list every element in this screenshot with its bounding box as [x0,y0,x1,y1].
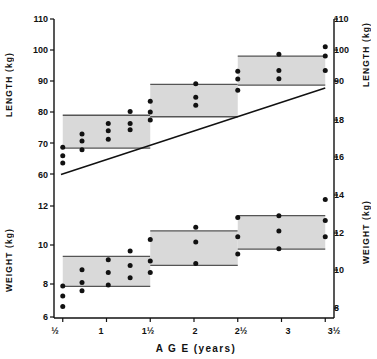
weight-data-point [148,259,153,264]
weight-data-point [106,283,111,288]
length-data-point [193,81,198,86]
length-data-point [235,77,240,82]
length-data-point [128,121,133,126]
weight-data-point [60,294,65,299]
weight-data-point [235,234,240,239]
weight-data-point [276,228,281,233]
length-data-point [235,88,240,93]
length-data-point [276,76,281,81]
length-data-point [60,160,65,165]
length-data-point [276,52,281,57]
length-data-point [323,68,328,73]
length-data-point [128,127,133,132]
weight-data-point [80,280,85,285]
length-data-point [323,44,328,49]
weight-data-point [323,197,328,202]
weight-data-point [148,237,153,242]
weight-data-point [80,267,85,272]
weight-data-point [148,270,153,275]
weight-data-point [276,246,281,251]
weight-reference-band-1 [150,231,238,265]
weight-data-point [235,251,240,256]
weight-data-point [128,275,133,280]
length-reference-band-2 [238,56,326,85]
length-data-point [276,68,281,73]
plot-canvas [0,0,377,359]
weight-data-point [193,261,198,266]
weight-data-point [106,257,111,262]
length-data-point [148,109,153,114]
length-data-point [128,109,133,114]
length-data-point [106,137,111,142]
length-data-point [80,132,85,137]
length-data-point [60,153,65,158]
weight-data-point [106,270,111,275]
length-data-point [148,118,153,123]
weight-data-point [60,304,65,309]
length-data-point [80,147,85,152]
weight-data-point [193,225,198,230]
weight-data-point [235,215,240,220]
weight-data-point [323,218,328,223]
length-data-point [60,145,65,150]
length-data-point [323,54,328,59]
length-data-point [193,103,198,108]
length-reference-band-1 [150,84,238,116]
length-data-point [148,99,153,104]
length-data-point [106,121,111,126]
weight-reference-band-2 [238,216,326,249]
weight-data-point [193,239,198,244]
weight-data-point [276,213,281,218]
length-data-point [106,128,111,133]
weight-data-point [60,283,65,288]
length-data-point [80,139,85,144]
weight-data-point [128,249,133,254]
weight-data-point [323,234,328,239]
length-data-point [235,69,240,74]
figure-root: LENGTH (kg) WEIGHT (kg) LENGTH (kg) WEIG… [0,0,377,359]
length-data-point [193,95,198,100]
weight-data-point [80,288,85,293]
weight-data-point [128,263,133,268]
